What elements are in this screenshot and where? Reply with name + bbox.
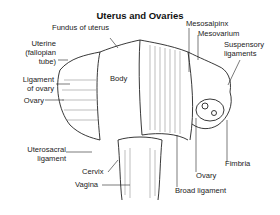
- label-fundus: Fundus of uterus: [52, 24, 109, 33]
- label-body: Body: [110, 75, 127, 84]
- label-ovary-right: Ovary: [196, 172, 216, 181]
- diagram-title: Uterus and Ovaries: [0, 10, 280, 21]
- label-ligament-ovary-2: of ovary: [10, 85, 54, 94]
- label-mesosalpinx: Mesosalpinx: [186, 20, 228, 29]
- label-vagina: Vagina: [75, 181, 98, 190]
- label-broad-ligament: Broad ligament: [175, 187, 226, 196]
- label-fimbria: Fimbria: [225, 160, 250, 169]
- label-suspensory-2: ligaments: [224, 50, 257, 59]
- label-cervix: Cervix: [82, 168, 104, 177]
- label-uterosacral-2: ligament: [8, 155, 66, 164]
- label-uterine-tube-3: tube): [22, 58, 56, 67]
- label-ovary-left: Ovary: [10, 97, 44, 106]
- label-mesovarium: Mesovarium: [198, 30, 239, 39]
